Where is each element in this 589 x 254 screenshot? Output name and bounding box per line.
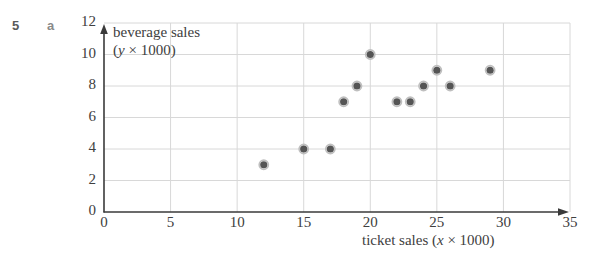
data-point xyxy=(407,98,414,105)
data-point xyxy=(327,145,334,152)
y-axis-title-line2-suffix: × 1000) xyxy=(125,42,176,58)
y-axis-title-line1: beverage sales xyxy=(113,24,200,40)
x-axis-variable: x xyxy=(437,232,444,248)
y-tick-label: 10 xyxy=(70,45,96,62)
x-axis-title-suffix: × 1000) xyxy=(444,232,495,248)
x-tick-label: 20 xyxy=(355,214,385,231)
data-point xyxy=(353,82,360,89)
data-point xyxy=(433,67,440,74)
x-tick-label: 10 xyxy=(222,214,252,231)
y-axis-arrow xyxy=(100,24,108,34)
y-tick-label: 4 xyxy=(70,139,96,156)
y-axis-variable: y xyxy=(118,42,125,58)
data-point xyxy=(487,67,494,74)
x-tick-label: 35 xyxy=(555,214,585,231)
data-point xyxy=(300,145,307,152)
scatter-plot: 024681012 05101520253035 beverage sales … xyxy=(0,0,589,254)
x-tick-label: 30 xyxy=(488,214,518,231)
x-tick-label: 5 xyxy=(156,214,186,231)
y-tick-label: 6 xyxy=(70,108,96,125)
x-axis-title-prefix: ticket sales ( xyxy=(362,232,437,248)
data-point xyxy=(447,82,454,89)
data-point xyxy=(420,82,427,89)
data-point xyxy=(393,98,400,105)
data-point xyxy=(260,161,267,168)
data-point xyxy=(367,51,374,58)
y-axis-title: beverage sales (y × 1000) xyxy=(113,24,200,59)
data-points xyxy=(259,50,495,169)
x-axis-title: ticket sales (x × 1000) xyxy=(362,232,495,250)
x-tick-label: 15 xyxy=(289,214,319,231)
x-tick-label: 25 xyxy=(422,214,452,231)
x-tick-label: 0 xyxy=(89,214,119,231)
y-tick-label: 2 xyxy=(70,171,96,188)
y-tick-label: 8 xyxy=(70,76,96,93)
y-tick-label: 12 xyxy=(70,13,96,30)
data-point xyxy=(340,98,347,105)
